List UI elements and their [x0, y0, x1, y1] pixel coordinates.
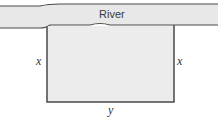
bottom-side-label: y — [108, 104, 113, 116]
field-area — [47, 26, 174, 102]
river-label: River — [99, 9, 125, 20]
left-side-label: x — [36, 55, 41, 67]
right-side-label: x — [177, 55, 182, 67]
